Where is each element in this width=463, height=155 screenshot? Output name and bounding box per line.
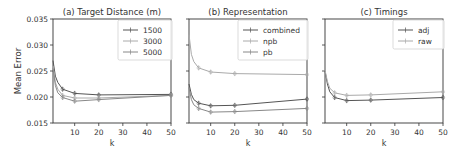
x-axis-label: k (246, 139, 251, 148)
legend: 150030005000 (118, 20, 172, 60)
legend-label: 3000 (143, 37, 162, 46)
legend: adjraw (393, 20, 444, 49)
legend-label: 5000 (143, 48, 162, 57)
x-tick-label: 40 (278, 128, 288, 137)
series-line-1500 (53, 61, 171, 95)
series-line-pb (189, 88, 307, 113)
series-line-adj (325, 71, 443, 101)
subplot-title: (c) Timings (360, 7, 408, 17)
series-line-5000 (53, 68, 171, 101)
subplot-2: (b) Representation1020304050kcombinednpb… (186, 7, 312, 148)
legend-label: 1500 (143, 26, 162, 35)
x-tick-label: 40 (414, 128, 424, 137)
y-tick-label: 0.025 (27, 67, 49, 76)
y-tick-label: 0.015 (27, 119, 49, 128)
x-axis-label: k (382, 139, 387, 148)
x-tick-label: 20 (94, 128, 104, 137)
x-tick-label: 50 (302, 128, 312, 137)
x-axis-label: k (110, 139, 115, 148)
y-tick-label: 0.035 (27, 15, 49, 24)
x-tick-label: 30 (390, 128, 400, 137)
subplot-3: (c) Timings1020304050kadjraw (322, 7, 448, 148)
x-tick-label: 10 (342, 128, 352, 137)
x-tick-label: 30 (118, 128, 128, 137)
series-line-combined (189, 84, 307, 106)
x-tick-label: 20 (230, 128, 240, 137)
x-tick-label: 10 (70, 128, 80, 137)
series-line-3000 (53, 66, 171, 98)
y-tick-label: 0.030 (27, 41, 49, 50)
legend: combinednpbpb (238, 20, 308, 60)
x-tick-label: 10 (206, 128, 216, 137)
x-tick-label: 20 (366, 128, 376, 137)
legend-label: combined (263, 26, 300, 35)
legend-label: raw (418, 37, 432, 46)
y-axis-label: Mean Error (13, 47, 23, 94)
x-tick-label: 30 (254, 128, 264, 137)
figure: Mean Error(a) Target Distance (m)0.0150.… (0, 0, 463, 155)
x-tick-label: 50 (166, 128, 176, 137)
x-tick-label: 40 (142, 128, 152, 137)
legend-label: pb (263, 48, 273, 57)
subplot-title: (b) Representation (208, 7, 287, 17)
subplot-1: (a) Target Distance (m)0.0150.0200.0250.… (27, 7, 176, 148)
y-tick-label: 0.020 (27, 93, 49, 102)
series-line-raw (325, 70, 443, 95)
x-tick-label: 50 (438, 128, 448, 137)
legend-label: npb (263, 37, 278, 46)
legend-label: adj (418, 26, 429, 35)
subplot-title: (a) Target Distance (m) (63, 7, 161, 17)
